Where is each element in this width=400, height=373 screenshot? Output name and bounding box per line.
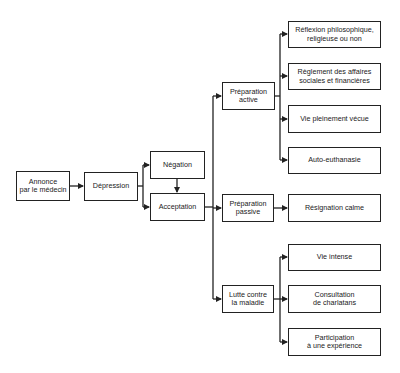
node-label: Consultation de charlatans [313,291,356,308]
node-label: Participation à une expérience [307,334,362,351]
node-reflexion: Réflexion philosophique, religieuse ou n… [288,21,381,48]
node-label: Préparation passive [229,200,266,217]
node-preparation-passive: Préparation passive [222,194,274,222]
node-resignation-calme: Résignation calme [288,194,381,222]
node-label: Acceptation [159,203,197,212]
node-reglement: Règlement des affaires sociales et finan… [288,63,381,90]
node-acceptation: Acceptation [150,193,205,221]
node-auto-euthanasie: Auto-euthanasie [288,147,381,174]
node-vie-pleinement-vecue: Vie pleinement vécue [288,105,381,133]
node-consultation-charlatans: Consultation de charlatans [288,285,381,313]
node-label: Résignation calme [305,204,364,213]
node-lutte-maladie: Lutte contre la maladie [222,285,274,313]
node-label: Règlement des affaires sociales et finan… [298,68,372,85]
node-label: Réflexion philosophique, religieuse ou n… [295,26,373,43]
node-label: Lutte contre la maladie [229,291,267,308]
node-participation-experience: Participation à une expérience [288,328,381,356]
node-label: Dépression [93,182,129,191]
node-label: Vie pleinement vécue [300,115,369,124]
node-negation: Négation [150,151,205,179]
node-depression: Dépression [84,172,138,201]
node-vie-intense: Vie intense [288,244,381,271]
node-label: Négation [163,161,192,170]
node-label: Vie intense [317,253,352,262]
node-label: Auto-euthanasie [308,156,360,165]
node-label: Annonce par le médecin [19,178,66,195]
node-annonce: Annonce par le médecin [16,171,70,201]
node-preparation-active: Préparation active [222,82,275,110]
flow-diagram: Annonce par le médecin Dépression Négati… [0,0,400,373]
node-label: Préparation active [230,88,267,105]
